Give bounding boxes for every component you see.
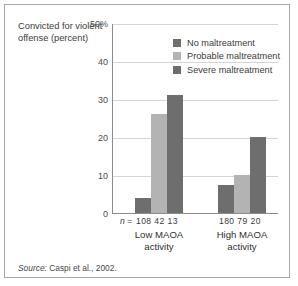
legend-label: Probable maltreatment (187, 51, 280, 61)
y-tick-30: 30 (80, 96, 108, 105)
sample-size-group-1: 108 42 13 (136, 216, 178, 226)
y-axis-tick-labels: 01020304050% (76, 24, 108, 214)
source-citation: Caspi et al., 2002. (47, 263, 117, 273)
legend-item-1: No maltreatment (173, 36, 280, 50)
category-label-line: High MAOA (202, 229, 282, 241)
category-label-line: activity (119, 241, 199, 253)
y-tick-20: 20 (80, 134, 108, 143)
bar (151, 114, 167, 213)
bar (218, 185, 234, 214)
x-axis-category-labels: Low MAOAactivityHigh MAOAactivity (112, 229, 284, 259)
bar (135, 198, 151, 213)
legend-swatch-icon (173, 39, 181, 47)
category-label-2: High MAOAactivity (202, 229, 282, 253)
bar (167, 95, 183, 213)
y-tick-10: 10 (80, 172, 108, 181)
legend-label: No maltreatment (187, 38, 255, 48)
legend-label: Severe maltreatment (187, 65, 272, 75)
category-label-line: activity (202, 241, 282, 253)
y-tick-0: 0 (80, 210, 108, 219)
bar (250, 137, 266, 213)
source-note: Source: Caspi et al., 2002. (18, 263, 117, 273)
y-tick-50: 50% (80, 20, 108, 29)
category-label-line: Low MAOA (119, 229, 199, 241)
n-symbol: n (120, 216, 125, 226)
legend-item-3: Severe maltreatment (173, 63, 280, 77)
source-word: Source: (18, 263, 47, 273)
bar (234, 175, 250, 213)
sample-size-group-2: 180 79 20 (219, 216, 261, 226)
sample-size-row: n = 108 42 13180 79 20 (112, 216, 284, 228)
legend-item-2: Probable maltreatment (173, 50, 280, 64)
legend-swatch-icon (173, 66, 181, 74)
y-tick-40: 40 (80, 58, 108, 67)
figure-panel: Convicted for violent offense (percent) … (4, 4, 290, 278)
sample-size-label: n = (120, 216, 132, 226)
chart-legend: No maltreatmentProbable maltreatmentSeve… (173, 36, 280, 77)
x-axis-line (112, 213, 278, 214)
legend-swatch-icon (173, 52, 181, 60)
category-label-1: Low MAOAactivity (119, 229, 199, 253)
